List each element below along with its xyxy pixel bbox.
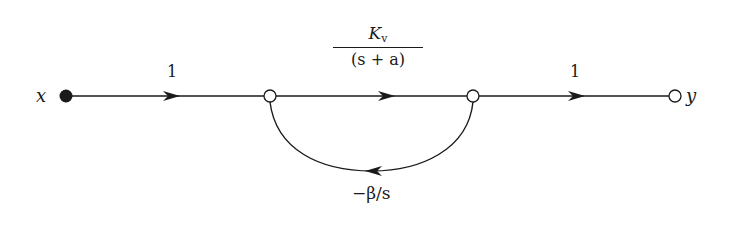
- node-n2: [467, 90, 479, 102]
- gain-mid-denominator: (s + a): [351, 48, 405, 68]
- output-label: y: [686, 87, 696, 105]
- node-n1: [264, 90, 276, 102]
- gain-mid-numerator: Kv: [369, 25, 388, 47]
- gain-mid-num-subscript: v: [381, 32, 387, 45]
- gain-label-mid: Kv (s + a): [333, 25, 423, 68]
- gain-mid-den-text: (s + a): [351, 50, 405, 69]
- gain-label-feedback: −β/s: [352, 185, 391, 202]
- gain-mid-num-text: K: [369, 23, 382, 43]
- node-y: [669, 90, 681, 102]
- branch-feedback-n2-to-n1: [270, 102, 473, 171]
- gain-label-right: 1: [570, 64, 580, 80]
- input-label: x: [36, 87, 46, 105]
- node-x: [60, 90, 73, 103]
- gain-label-left: 1: [167, 64, 177, 80]
